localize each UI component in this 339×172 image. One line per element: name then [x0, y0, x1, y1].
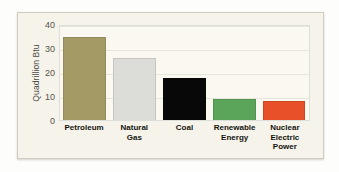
x-label-line: Coal — [159, 123, 209, 133]
x-label-line: Electric — [260, 133, 310, 143]
bar-nuclear-electric-power[interactable] — [263, 101, 306, 120]
x-label-coal: Coal — [159, 123, 209, 152]
figure-root: Quadrillion Btu 010203040 PetroleumNatur… — [0, 0, 339, 172]
bar-renewable-energy[interactable] — [213, 99, 256, 120]
x-label-line: Gas — [109, 133, 159, 143]
y-tick-label: 20 — [34, 68, 55, 78]
y-tick-label: 30 — [34, 44, 55, 54]
y-tick-label: 10 — [34, 92, 55, 102]
x-label-petroleum: Petroleum — [59, 123, 109, 152]
y-tick-label: 40 — [34, 20, 55, 30]
bar-slot — [160, 26, 210, 120]
x-label-nuclear-electric-power: NuclearElectricPower — [260, 123, 310, 152]
bar-coal[interactable] — [163, 78, 206, 120]
y-axis-tick-labels: 010203040 — [34, 25, 55, 121]
bar-slot — [60, 26, 110, 120]
x-label-line: Energy — [210, 133, 260, 143]
x-label-line: Renewable — [210, 123, 260, 133]
y-tick-label: 0 — [34, 116, 55, 126]
plot-wrapper: Quadrillion Btu 010203040 PetroleumNatur… — [18, 13, 325, 160]
plot-area — [59, 25, 310, 121]
bar-slot — [209, 26, 259, 120]
x-label-line: Natural — [109, 123, 159, 133]
bars-container — [60, 26, 309, 120]
x-axis-category-labels: PetroleumNaturalGasCoalRenewableEnergyNu… — [59, 123, 310, 152]
bar-natural-gas[interactable] — [113, 58, 156, 120]
bar-petroleum[interactable] — [63, 37, 106, 120]
bar-slot — [259, 26, 309, 120]
bar-slot — [110, 26, 160, 120]
x-label-line: Petroleum — [59, 123, 109, 133]
x-label-line: Nuclear — [260, 123, 310, 133]
x-label-natural-gas: NaturalGas — [109, 123, 159, 152]
x-label-line: Power — [260, 142, 310, 152]
x-label-renewable-energy: RenewableEnergy — [210, 123, 260, 152]
chart-card: Quadrillion Btu 010203040 PetroleumNatur… — [17, 12, 324, 159]
